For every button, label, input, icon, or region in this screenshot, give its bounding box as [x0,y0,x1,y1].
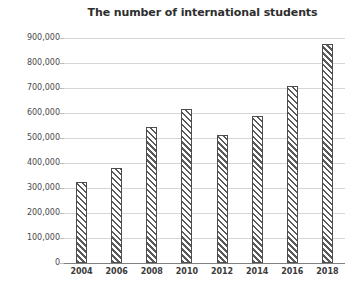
axis-baseline [64,263,345,264]
y-axis-tick [59,263,64,264]
gridline [64,113,345,114]
bar [111,168,122,263]
bar [146,127,157,263]
y-axis-tick-label: 400,000 [4,159,60,167]
y-axis-tick [59,38,64,39]
chart-title: The number of international students [60,6,345,19]
y-axis-tick-label: 100,000 [4,234,60,242]
gridline [64,238,345,239]
bar-chart: The number of international students 010… [0,0,355,297]
gridline [64,213,345,214]
y-axis-tick [59,138,64,139]
gridline [64,188,345,189]
y-axis-tick-label: 500,000 [4,134,60,142]
y-axis-tick-label: 800,000 [4,59,60,67]
y-axis-tick [59,238,64,239]
bar [217,135,228,263]
gridline [64,138,345,139]
plot-area [64,38,345,263]
y-axis-tick [59,163,64,164]
y-axis-tick [59,63,64,64]
gridline [64,63,345,64]
y-axis-tick-label: 300,000 [4,184,60,192]
x-axis-tick-label: 2014 [240,268,274,276]
x-axis-tick-label: 2010 [170,268,204,276]
x-axis-tick-label: 2008 [135,268,169,276]
bar [181,109,192,263]
gridline [64,88,345,89]
y-axis-tick-label: 200,000 [4,209,60,217]
x-axis-tick-label: 2006 [100,268,134,276]
gridline [64,163,345,164]
y-axis-tick-label: 700,000 [4,84,60,92]
bar [287,86,298,264]
x-axis-tick-label: 2004 [65,268,99,276]
y-axis-tick [59,113,64,114]
bar [322,44,333,263]
y-axis-tick-label: 900,000 [4,34,60,42]
y-axis-tick [59,213,64,214]
y-axis-tick [59,88,64,89]
y-axis-tick [59,188,64,189]
x-axis-tick-label: 2012 [205,268,239,276]
gridline [64,38,345,39]
y-axis-tick-label: 0 [4,259,60,267]
bar [76,182,87,263]
bar [252,116,263,263]
x-axis-tick-label: 2018 [310,268,344,276]
x-axis-tick-label: 2016 [275,268,309,276]
y-axis-tick-label: 600,000 [4,109,60,117]
